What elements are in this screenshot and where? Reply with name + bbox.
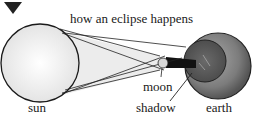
moon-label: moon <box>143 80 173 93</box>
sun <box>1 24 79 102</box>
moon <box>158 58 168 68</box>
sun-label: sun <box>28 101 46 114</box>
diagram-title: how an eclipse happens <box>70 12 193 25</box>
shadow-label: shadow <box>136 101 176 114</box>
earth-label: earth <box>206 101 232 114</box>
down-triangle-icon <box>4 2 22 14</box>
shadow-pointer <box>170 73 192 101</box>
